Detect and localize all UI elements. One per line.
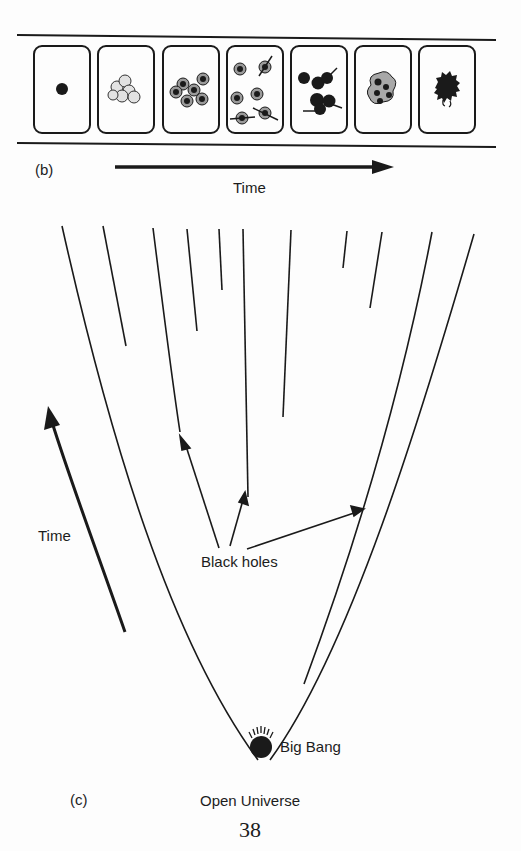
frame-4: [227, 46, 283, 133]
panel-c-title: Open Universe: [200, 792, 300, 809]
panel-b-time-label: Time: [233, 179, 266, 196]
arrowhead-icon: [180, 436, 190, 450]
arrowhead-icon: [351, 506, 364, 516]
frame-5: [291, 46, 347, 133]
black-hole-pointer-1: [185, 443, 219, 548]
page-number: 38: [239, 817, 261, 843]
worldline: [343, 231, 347, 268]
universe-right-boundary: [270, 234, 474, 760]
panel-c-time-label: Time: [38, 527, 71, 544]
worldline: [283, 230, 291, 417]
strip-bottom-rule: [17, 143, 496, 147]
universe-left-boundary: [62, 226, 258, 760]
black-hole-pointer-2: [230, 500, 243, 546]
arrowhead-icon: [239, 492, 248, 505]
strip-top-rule: [17, 35, 496, 40]
frame-7: [419, 46, 475, 133]
frame-3: [163, 46, 219, 133]
frame-1: [34, 46, 90, 133]
worldline: [153, 228, 180, 432]
worldline: [370, 232, 382, 308]
black-holes-label: Black holes: [201, 553, 278, 570]
seed-dot-icon: [56, 83, 68, 95]
big-bang-label: Big Bang: [280, 738, 341, 755]
worldline: [219, 229, 222, 290]
frame-strip-graphic: [0, 0, 521, 200]
time-arrow-head-icon: [372, 160, 394, 174]
black-mass-icon: [434, 71, 460, 103]
frame-6: [355, 46, 411, 133]
big-bang-icon: [249, 726, 273, 758]
panel-c-label: (c): [70, 791, 88, 808]
worldline: [243, 229, 248, 497]
black-hole-pointer-3: [247, 512, 357, 549]
frame-2: [98, 46, 154, 133]
panel-b-label: (b): [35, 161, 53, 178]
worldline: [103, 226, 126, 346]
worldline: [304, 232, 432, 684]
worldline: [187, 229, 197, 331]
time-arrow-head-icon: [44, 406, 60, 430]
